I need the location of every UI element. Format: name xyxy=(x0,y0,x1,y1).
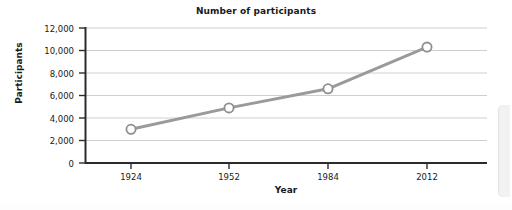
data-line xyxy=(131,47,427,129)
data-point-marker xyxy=(323,84,332,93)
plot-area xyxy=(0,0,512,210)
page-bottom-edge xyxy=(0,205,512,210)
scrollbar-edge-artifact[interactable] xyxy=(498,105,510,197)
line-chart: Number of participants Participants Year… xyxy=(0,0,512,210)
data-point-marker xyxy=(422,43,431,52)
data-point-marker xyxy=(224,103,233,112)
data-point-marker xyxy=(126,125,135,134)
y-axis-ticks xyxy=(79,28,85,163)
